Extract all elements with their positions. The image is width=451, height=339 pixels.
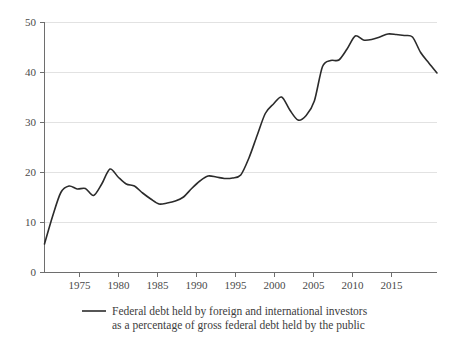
- y-axis-tick-labels: 50 40 30 20 10 0: [25, 16, 37, 278]
- axes-group: [44, 22, 437, 273]
- x-tick-label-2010: 2010: [342, 279, 365, 291]
- x-tick-label-1985: 1985: [147, 279, 170, 291]
- y-tick-label-20: 20: [25, 166, 37, 178]
- series-line-federal-debt-foreign: [45, 34, 438, 244]
- chart-legend: Federal debt held by foreign and interna…: [82, 305, 368, 332]
- y-tick-label-10: 10: [25, 216, 37, 228]
- x-tick-label-1990: 1990: [186, 279, 209, 291]
- x-tick-label-1980: 1980: [108, 279, 131, 291]
- x-axis-tick-labels: 1975 1980 1985 1990 1995 2000 2005 2010 …: [69, 279, 404, 291]
- y-tick-label-30: 30: [25, 116, 37, 128]
- y-tick-label-0: 0: [31, 266, 37, 278]
- y-tick-marks-group: [40, 23, 44, 273]
- x-tick-label-1995: 1995: [225, 279, 248, 291]
- legend-label-line1: Federal debt held by foreign and interna…: [112, 305, 368, 318]
- legend-label-line2: as a percentage of gross federal debt he…: [112, 319, 365, 332]
- x-tick-label-2015: 2015: [381, 279, 404, 291]
- line-chart: 50 40 30 20 10 0 1975 1980 1985 1990 199…: [0, 0, 451, 339]
- x-tick-label-1975: 1975: [69, 279, 92, 291]
- y-tick-label-50: 50: [25, 16, 37, 28]
- gridlines-group: [44, 22, 437, 222]
- x-tick-label-2005: 2005: [303, 279, 326, 291]
- chart-figure: 50 40 30 20 10 0 1975 1980 1985 1990 199…: [0, 0, 451, 339]
- y-tick-label-40: 40: [25, 66, 37, 78]
- x-tick-label-2000: 2000: [264, 279, 287, 291]
